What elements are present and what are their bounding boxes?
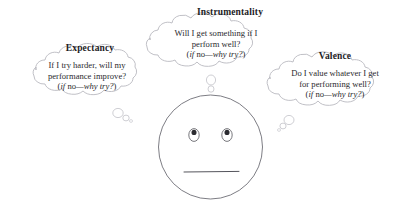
- bubble-text-valence: Do I value whatever I get for performing…: [272, 68, 398, 100]
- bubble-tagline-instrumentality: (if no—why try?): [152, 49, 280, 60]
- thought-dot-large-expectancy: [113, 108, 123, 117]
- right-eye: [222, 129, 232, 142]
- bubble-line-1-expectancy: If I try harder, will my: [49, 60, 126, 70]
- tagline-no-instrumentality: no: [194, 49, 205, 59]
- thought-dot-small-valence: [278, 129, 281, 132]
- tagline-why-try-valence: —why try?: [324, 89, 361, 99]
- thought-dot-large-instrumentality: [206, 75, 215, 85]
- bubble-tagline-valence: (if no—why try?): [272, 89, 398, 100]
- neutral-face: [159, 95, 263, 199]
- bubble-tagline-expectancy: (if no—why try?): [26, 81, 148, 92]
- thought-dot-medium-expectancy: [123, 115, 129, 121]
- bubble-line-2-expectancy: performance improve?: [48, 71, 126, 81]
- heading-instrumentality: Instrumentality: [172, 7, 288, 17]
- thought-dot-large-valence: [284, 115, 294, 124]
- right-eye-pupil: [225, 130, 230, 135]
- tagline-close-paren-valence: ): [362, 89, 365, 99]
- bubble-line-1-instrumentality: Will I get something if I: [175, 28, 258, 38]
- tagline-no-expectancy: no: [65, 81, 76, 91]
- tagline-why-try-instrumentality: —why try?: [205, 49, 242, 59]
- left-eye-pupil: [192, 130, 197, 135]
- bubble-line-2-instrumentality: perform well?: [192, 39, 240, 49]
- tagline-close-paren-expectancy: ): [114, 81, 117, 91]
- bubble-line-1-valence: Do I value whatever I get: [291, 68, 379, 78]
- tagline-close-paren-instrumentality: ): [243, 49, 246, 59]
- left-eye: [189, 129, 199, 142]
- tagline-no-valence: no: [313, 89, 324, 99]
- tagline-why-try-expectancy: —why try?: [76, 81, 113, 91]
- thought-dot-small-instrumentality: [208, 86, 214, 92]
- expectancy-theory-diagram: Expectancy Instrumentality Valence If I …: [0, 0, 409, 209]
- thought-dot-medium-valence: [280, 123, 286, 129]
- bubble-text-instrumentality: Will I get something if I perform well? …: [152, 28, 280, 60]
- bubble-text-expectancy: If I try harder, will my performance imp…: [26, 60, 148, 92]
- mouth-straight-line: [184, 171, 239, 172]
- heading-expectancy: Expectancy: [44, 43, 136, 53]
- face-outline: [159, 95, 263, 199]
- bubble-line-2-valence: for performing well?: [299, 79, 371, 89]
- thought-dot-small-expectancy: [130, 120, 133, 123]
- heading-valence: Valence: [298, 51, 372, 61]
